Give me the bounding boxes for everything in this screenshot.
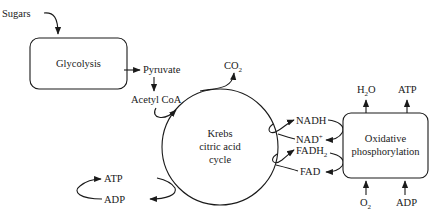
respiration-diagram: Sugars Glycolysis Pyruvate Acetyl CoA Kr… (0, 0, 438, 214)
cycle-to-fadh2-arrow (273, 150, 294, 162)
oxphos-label-line1: Oxidative (365, 133, 407, 144)
nad-label: NAD+ (296, 133, 323, 145)
krebs-label-line3: cycle (209, 154, 231, 165)
adp-to-atp-arrow (77, 179, 102, 199)
nadh-label: NADH (296, 115, 327, 126)
fadh2-label: FADH2 (296, 145, 328, 159)
pyruvate-label: Pyruvate (143, 64, 181, 75)
krebs-atp-label: ATP (104, 173, 123, 184)
fad-line-to-cycle (276, 165, 298, 171)
krebs-label-line2: citric acid (199, 141, 241, 152)
co2-release-arrow (200, 73, 234, 91)
cycle-to-adp-arrow (150, 188, 175, 199)
o2-label: O2 (360, 197, 372, 211)
glycolysis-label: Glycolysis (56, 58, 101, 69)
h2o-label: H2O (357, 84, 376, 98)
fadh2-to-fad-arrow (326, 153, 343, 172)
fad-label: FAD (300, 166, 321, 177)
krebs-adp-label: ADP (104, 194, 125, 205)
nadh-to-nad-arrow (326, 120, 343, 140)
oxphos-adp-label: ADP (396, 197, 417, 208)
sugars-label: Sugars (2, 8, 31, 19)
co2-label: CO2 (224, 60, 243, 74)
krebs-label-line1: Krebs (207, 128, 232, 139)
sugars-arrow (44, 13, 58, 34)
oxphos-atp-label: ATP (398, 84, 417, 95)
oxphos-label-line2: phosphorylation (351, 146, 420, 157)
nad-line-to-cycle (278, 134, 295, 139)
acetyl-coa-label: Acetyl CoA (131, 94, 182, 105)
